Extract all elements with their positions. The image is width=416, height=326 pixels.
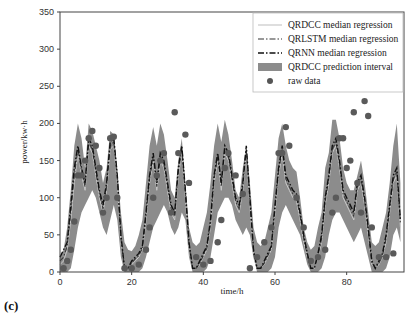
y-tick-label: 100 bbox=[39, 193, 54, 203]
x-tick-label: 80 bbox=[342, 277, 352, 287]
raw-data-point bbox=[261, 239, 267, 245]
x-axis-label: time/h bbox=[221, 286, 244, 296]
raw-data-point bbox=[347, 157, 353, 163]
legend-interval-label: QRDCC prediction interval bbox=[288, 62, 393, 72]
raw-data-point bbox=[293, 195, 299, 201]
y-tick-label: 50 bbox=[44, 230, 54, 240]
raw-data-point bbox=[82, 157, 88, 163]
raw-data-point bbox=[68, 247, 74, 253]
legend-qrnn-label: QRNN median regression bbox=[288, 48, 387, 58]
raw-data-point bbox=[286, 143, 292, 149]
y-tick-label: 150 bbox=[39, 156, 54, 166]
raw-data-point bbox=[103, 195, 109, 201]
raw-data-point bbox=[157, 157, 163, 163]
chart-svg: 050100150200250300350 020406080 time/h p… bbox=[0, 0, 416, 326]
y-tick-label: 200 bbox=[39, 118, 54, 128]
raw-data-point bbox=[351, 109, 357, 115]
raw-data-point bbox=[254, 254, 260, 260]
raw-data-point bbox=[232, 172, 238, 178]
raw-data-point bbox=[121, 265, 127, 271]
raw-data-point bbox=[207, 258, 213, 264]
raw-data-point bbox=[322, 247, 328, 253]
raw-data-point bbox=[340, 135, 346, 141]
legend-qrlstm-label: QRLSTM median regression bbox=[288, 34, 399, 44]
raw-data-point bbox=[93, 143, 99, 149]
raw-data-point bbox=[96, 165, 102, 171]
raw-data-point bbox=[390, 250, 396, 256]
raw-data-point bbox=[143, 247, 149, 253]
legend-interval-swatch bbox=[258, 63, 282, 71]
x-axis: 020406080 bbox=[57, 272, 351, 287]
raw-data-point bbox=[186, 180, 192, 186]
raw-data-point bbox=[114, 195, 120, 201]
raw-data-point bbox=[329, 209, 335, 215]
raw-data-point bbox=[354, 180, 360, 186]
raw-data-point bbox=[333, 195, 339, 201]
raw-data-point bbox=[78, 172, 84, 178]
raw-data-point bbox=[136, 261, 142, 267]
raw-data-point bbox=[200, 261, 206, 267]
legend-qrdcc-median-label: QRDCC median regression bbox=[288, 20, 393, 30]
raw-data-point bbox=[247, 265, 253, 271]
raw-data-point bbox=[268, 224, 274, 230]
raw-data-point bbox=[71, 218, 77, 224]
panel-label: (c) bbox=[4, 298, 18, 314]
raw-data-point bbox=[315, 254, 321, 260]
y-tick-label: 0 bbox=[49, 267, 54, 277]
raw-data-point bbox=[369, 224, 375, 230]
raw-data-point bbox=[168, 209, 174, 215]
x-tick-label: 40 bbox=[198, 277, 208, 287]
raw-data-point bbox=[154, 172, 160, 178]
plot-area bbox=[60, 98, 400, 272]
y-axis: 050100150200250300350 bbox=[39, 7, 60, 277]
y-tick-label: 350 bbox=[39, 7, 54, 17]
y-tick-label: 300 bbox=[39, 44, 54, 54]
raw-data-point bbox=[150, 195, 156, 201]
raw-data-point bbox=[100, 209, 106, 215]
raw-data-point bbox=[301, 224, 307, 230]
legend: QRDCC median regression QRLSTM median re… bbox=[253, 13, 403, 92]
raw-data-point bbox=[225, 150, 231, 156]
raw-data-point bbox=[175, 150, 181, 156]
raw-data-point bbox=[146, 224, 152, 230]
raw-data-point bbox=[308, 258, 314, 264]
raw-data-point bbox=[193, 254, 199, 260]
raw-data-point bbox=[129, 265, 135, 271]
x-tick-label: 20 bbox=[127, 277, 137, 287]
x-tick-label: 60 bbox=[270, 277, 280, 287]
raw-data-point bbox=[361, 98, 367, 104]
raw-data-point bbox=[182, 131, 188, 137]
raw-data-point bbox=[172, 109, 178, 115]
raw-data-point bbox=[218, 217, 224, 223]
legend-raw-data-label: raw data bbox=[288, 76, 321, 86]
raw-data-point bbox=[376, 254, 382, 260]
raw-data-point bbox=[240, 191, 246, 197]
raw-data-point bbox=[215, 239, 221, 245]
y-tick-label: 250 bbox=[39, 81, 54, 91]
raw-data-point bbox=[222, 165, 228, 171]
raw-data-point bbox=[365, 113, 371, 119]
x-tick-label: 0 bbox=[57, 277, 62, 287]
raw-data-point bbox=[111, 134, 117, 140]
y-axis-label: power/kw·h bbox=[19, 120, 29, 164]
raw-data-point bbox=[60, 265, 66, 271]
raw-data-point bbox=[161, 150, 167, 156]
raw-data-point bbox=[344, 165, 350, 171]
raw-data-point bbox=[383, 254, 389, 260]
raw-data-point bbox=[89, 128, 95, 134]
raw-data-point bbox=[86, 135, 92, 141]
raw-data-point bbox=[358, 209, 364, 215]
raw-data-point bbox=[279, 150, 285, 156]
raw-data-point bbox=[64, 258, 70, 264]
prediction-interval-band bbox=[60, 120, 400, 272]
raw-data-point bbox=[283, 124, 289, 130]
legend-raw-data-marker bbox=[267, 78, 273, 84]
